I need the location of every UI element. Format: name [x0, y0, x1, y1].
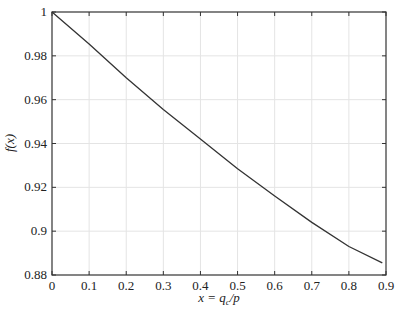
y-tick-label: 0.9	[31, 223, 47, 238]
y-tick-label: 0.92	[24, 179, 47, 194]
y-axis-label: f(x)	[2, 134, 17, 152]
x-tick-label: 0	[49, 278, 56, 293]
y-tick-label: 0.94	[24, 136, 47, 151]
y-tick-label: 1	[41, 4, 48, 19]
x-axis-label: x = qc/p	[197, 290, 240, 307]
x-tick-label: 0.1	[81, 278, 97, 293]
y-tick-label: 0.96	[24, 92, 47, 107]
grid-lines	[52, 12, 386, 275]
data-series	[52, 12, 382, 263]
x-tick-label: 0.6	[267, 278, 284, 293]
y-tick-labels: 0.880.90.920.940.960.981	[24, 4, 47, 282]
x-tick-label: 0.9	[378, 278, 394, 293]
line-chart: 00.10.20.30.40.50.60.70.80.9 0.880.90.92…	[0, 0, 401, 322]
x-tick-label: 0.3	[155, 278, 171, 293]
x-tick-label: 0.7	[304, 278, 321, 293]
y-tick-label: 0.98	[24, 48, 47, 63]
x-tick-label: 0.8	[341, 278, 357, 293]
x-tick-label: 0.2	[118, 278, 134, 293]
y-tick-label: 0.88	[24, 267, 47, 282]
series-line	[52, 12, 382, 263]
